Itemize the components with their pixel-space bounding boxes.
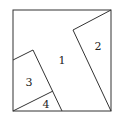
region-4-label: 4: [43, 98, 50, 111]
region-1-label: 1: [59, 54, 66, 67]
region-3-top-edge: [13, 50, 33, 60]
square-dissection-diagram: 1 2 3 4: [0, 0, 120, 121]
region-3-label: 3: [26, 76, 33, 89]
region-2-label: 2: [95, 40, 102, 53]
region-2-top-edge: [73, 10, 111, 30]
region-2-diagonal-edge: [73, 30, 111, 111]
